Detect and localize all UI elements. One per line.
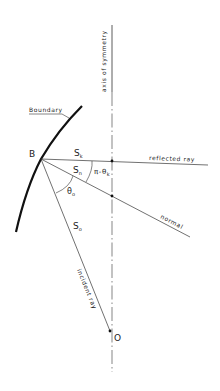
point-b-label: B xyxy=(29,149,35,159)
angle-arc-pi-minus-theta-k xyxy=(86,161,92,182)
point-o xyxy=(109,330,112,333)
s-n-label: Sn xyxy=(73,165,82,176)
reflection-diagram: axis of symmetry Boundary B reflected ra… xyxy=(0,0,220,391)
normal-axis-intersection xyxy=(111,195,114,198)
boundary-label: Boundary xyxy=(29,106,63,114)
reflected-ray-label: reflected ray xyxy=(149,154,195,164)
boundary-leader xyxy=(62,114,69,118)
theta-o-label: θo xyxy=(67,187,75,197)
s-k-label: Sk xyxy=(74,148,83,159)
incident-ray xyxy=(41,159,110,331)
reflected-axis-intersection xyxy=(111,160,114,163)
point-o-label: O xyxy=(114,333,121,343)
normal-line xyxy=(41,159,190,237)
axis-label: axis of symmetry xyxy=(100,30,108,92)
pi-minus-theta-k-label: π-θk xyxy=(94,168,110,177)
s-o-label: So xyxy=(73,221,82,232)
